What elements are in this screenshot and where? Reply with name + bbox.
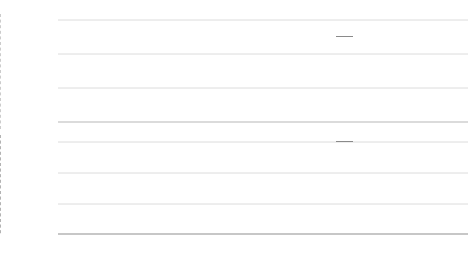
legend-line-swatch-blueandblack — [336, 141, 353, 142]
gridlines-bottom — [58, 142, 468, 204]
gridlines-top — [58, 20, 468, 88]
legend-whiteandgold — [336, 36, 357, 37]
dress-hashtag-volume-figure — [0, 0, 471, 269]
chart-panel-blueandblack — [0, 135, 471, 269]
blueandblack-plot — [0, 135, 471, 269]
whiteandgold-plot — [0, 0, 471, 135]
chart-panel-whiteandgold — [0, 0, 471, 135]
legend-blueandblack — [336, 141, 357, 142]
legend-line-swatch-whiteandgold — [336, 36, 353, 37]
